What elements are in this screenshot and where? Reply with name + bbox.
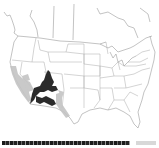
legend-strip	[2, 141, 130, 145]
core-range	[30, 70, 58, 106]
legend-swatch	[136, 141, 156, 145]
range-map	[0, 0, 159, 136]
